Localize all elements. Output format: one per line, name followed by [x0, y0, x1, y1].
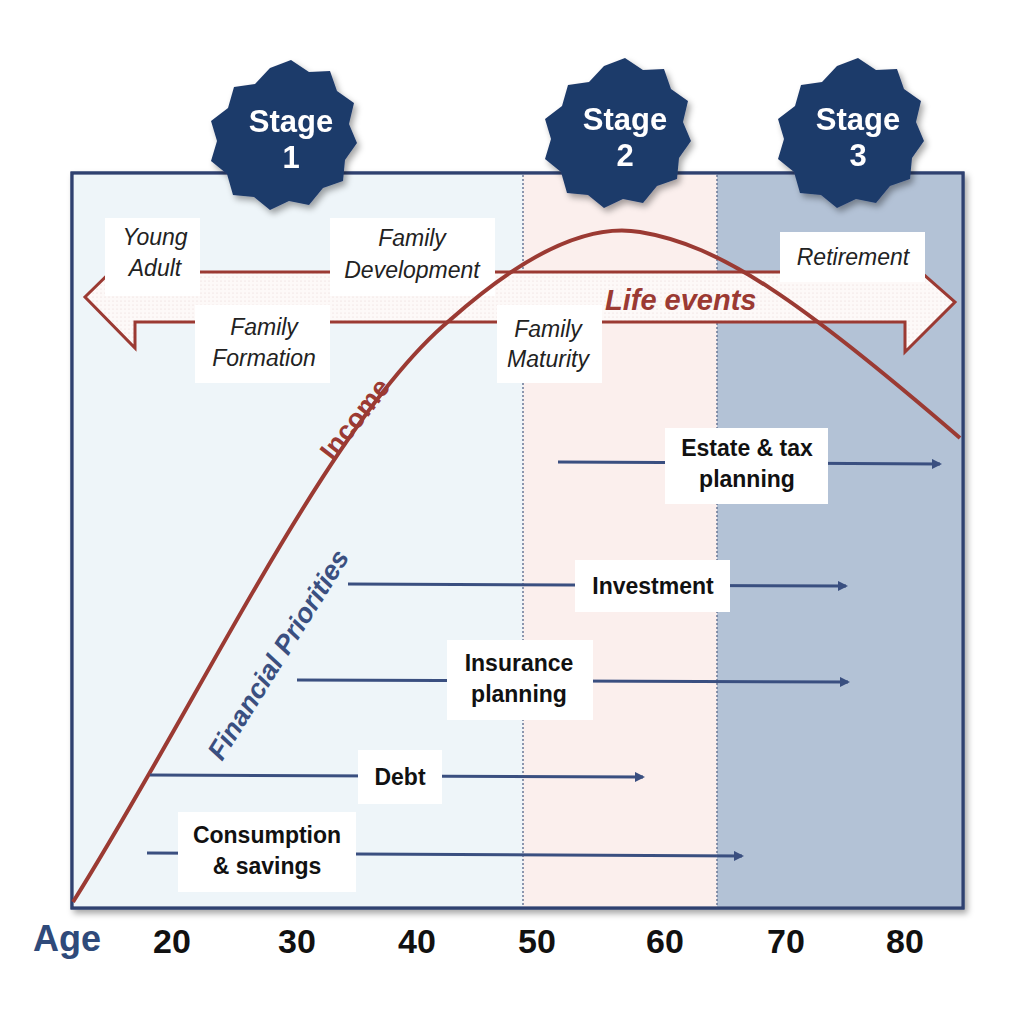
financial-life-stages-diagram: Life events Young Adult Family Developme… [0, 0, 1018, 1010]
life-event-family-maturity-line1: Family [514, 316, 583, 342]
age-axis: Age 20 30 40 50 60 70 80 [33, 918, 924, 960]
age-tick-40: 40 [398, 922, 436, 960]
life-event-retirement: Retirement [797, 244, 911, 270]
life-event-young-adult-line1: Young [122, 224, 187, 250]
priority-consumption-line1: Consumption [193, 822, 341, 848]
age-tick-80: 80 [886, 922, 924, 960]
priority-investment: Investment [592, 573, 714, 599]
stage-3-number: 3 [849, 138, 866, 173]
life-event-family-development-line1: Family [378, 225, 447, 251]
priority-estate-line2: planning [699, 466, 795, 492]
age-tick-30: 30 [278, 922, 316, 960]
priority-estate-line1: Estate & tax [681, 435, 813, 461]
life-events-label: Life events [605, 284, 757, 316]
stage-2-title: Stage [583, 102, 667, 137]
stage-2-number: 2 [616, 138, 633, 173]
life-event-young-adult-line2: Adult [127, 255, 183, 281]
stage-1-title: Stage [249, 104, 333, 139]
life-event-family-development-line2: Development [344, 257, 481, 283]
life-event-family-formation-line2: Formation [212, 345, 316, 371]
age-tick-50: 50 [518, 922, 556, 960]
priority-insurance-line2: planning [471, 681, 567, 707]
life-event-family-maturity-line2: Maturity [507, 346, 590, 372]
life-event-family-formation-line1: Family [230, 314, 299, 340]
stage-3-title: Stage [816, 102, 900, 137]
priority-consumption-line2: & savings [213, 853, 322, 879]
age-tick-60: 60 [646, 922, 684, 960]
stage-1-number: 1 [282, 140, 299, 175]
priority-insurance-line1: Insurance [465, 650, 574, 676]
age-axis-title: Age [33, 918, 101, 959]
age-tick-70: 70 [767, 922, 805, 960]
age-tick-20: 20 [153, 922, 191, 960]
priority-debt: Debt [374, 764, 425, 790]
